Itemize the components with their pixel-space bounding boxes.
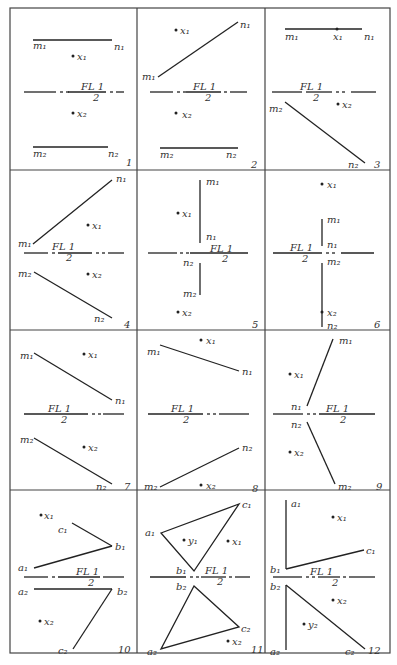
panel-number: 2	[250, 159, 257, 170]
svg-text:FL 1: FL 1	[192, 81, 216, 92]
svg-text:x₁: x₁	[92, 220, 102, 231]
svg-text:m₁: m₁	[339, 335, 353, 346]
panel-10	[24, 523, 124, 649]
svg-text:FL 1: FL 1	[309, 566, 333, 577]
svg-text:2: 2	[87, 577, 94, 588]
svg-text:c₂: c₂	[241, 623, 251, 634]
panel-6-labels: x₁m₁n₁ FL 12 m₂x₂n₂ 6	[289, 179, 381, 331]
svg-text:a₁: a₁	[145, 527, 155, 538]
svg-text:x₂: x₂	[88, 442, 98, 453]
svg-text:n₁: n₁	[242, 366, 252, 377]
svg-text:n₁: n₁	[206, 231, 216, 242]
panel-number: 10	[118, 644, 131, 655]
svg-text:m₂: m₂	[160, 149, 174, 160]
panel-2-points	[175, 29, 178, 115]
svg-text:x₁: x₁	[333, 31, 343, 42]
panel-1-labels: m₁n₁x₁ FL 12 x₂m₂n₂ 1	[33, 40, 132, 168]
svg-text:2: 2	[339, 414, 346, 425]
svg-text:m₂: m₂	[144, 481, 158, 492]
panel-10-points	[39, 514, 43, 623]
svg-text:m₁: m₁	[206, 176, 220, 187]
panel-10-labels: x₁c₁b₁ a₁FL 12 a₂b₂x₂ c₂ 10	[18, 510, 131, 656]
svg-text:n₂: n₂	[96, 481, 106, 492]
svg-text:m₂: m₂	[18, 268, 32, 279]
panel-11-labels: c₁a₁y₁x₁ b₁FL 12 b₂c₂x₂ a₂ 11	[145, 499, 264, 657]
svg-text:x₁: x₁	[327, 179, 337, 190]
svg-text:a₁: a₁	[18, 562, 28, 573]
svg-text:n₁: n₁	[116, 173, 126, 184]
panel-number: 4	[123, 319, 130, 330]
svg-text:b₂: b₂	[176, 581, 186, 592]
svg-text:y₁: y₁	[187, 535, 198, 546]
svg-text:x₂: x₂	[294, 447, 304, 458]
svg-text:n₂: n₂	[327, 320, 337, 331]
svg-text:x₂: x₂	[77, 108, 87, 119]
svg-text:x₁: x₁	[77, 51, 87, 62]
panel-5-points	[177, 212, 180, 314]
svg-text:FL 1: FL 1	[170, 403, 194, 414]
svg-text:x₂: x₂	[92, 269, 102, 280]
svg-text:n₁: n₁	[327, 239, 337, 250]
panel-7	[24, 353, 124, 484]
svg-text:n₂: n₂	[183, 257, 193, 268]
panel-number: 5	[252, 319, 258, 330]
panel-1-points	[72, 55, 75, 115]
svg-text:b₁: b₁	[176, 565, 186, 576]
svg-text:m₁: m₁	[33, 40, 47, 51]
svg-text:2: 2	[60, 414, 67, 425]
panel-6	[273, 219, 374, 327]
svg-text:m₂: m₂	[338, 481, 352, 492]
svg-text:x₁: x₁	[88, 349, 98, 360]
svg-text:2: 2	[92, 92, 99, 103]
svg-text:2: 2	[182, 414, 189, 425]
panel-number: 8	[252, 483, 258, 494]
panel-4-labels: n₁x₁m₁ FL 12 m₂x₂n₂ 4	[18, 173, 130, 330]
panel-7-points	[83, 353, 86, 449]
svg-text:c₁: c₁	[242, 499, 252, 510]
svg-text:FL 1: FL 1	[299, 81, 323, 92]
svg-text:x₁: x₁	[180, 25, 190, 36]
svg-text:x₂: x₂	[44, 616, 54, 627]
svg-text:n₂: n₂	[108, 148, 118, 159]
svg-text:b₁: b₁	[115, 541, 125, 552]
svg-text:x₁: x₁	[44, 510, 54, 521]
svg-text:n₁: n₁	[364, 31, 374, 42]
svg-text:2: 2	[65, 252, 72, 263]
panel-3	[272, 29, 376, 163]
svg-text:m₂: m₂	[269, 103, 283, 114]
svg-text:x₁: x₁	[206, 335, 216, 346]
svg-text:b₂: b₂	[117, 586, 127, 597]
panel-3-labels: m₁x₁n₁ FL 12 x₂m₂n₂ 3	[269, 31, 380, 170]
panel-7-labels: m₁x₁n₁ FL 12 m₂x₂n₂ 7	[20, 349, 131, 492]
svg-text:c₁: c₁	[58, 524, 68, 535]
svg-text:m₁: m₁	[147, 346, 161, 357]
svg-text:n₂: n₂	[291, 419, 301, 430]
svg-text:2: 2	[204, 92, 211, 103]
svg-text:n₂: n₂	[348, 159, 358, 170]
svg-text:n₁: n₁	[115, 395, 125, 406]
svg-text:FL 1: FL 1	[80, 81, 104, 92]
svg-text:2: 2	[331, 577, 338, 588]
svg-text:a₂: a₂	[18, 586, 28, 597]
panel-4-points	[87, 224, 90, 276]
svg-text:FL 1: FL 1	[47, 403, 71, 414]
svg-text:n₁: n₁	[240, 19, 250, 30]
svg-text:m₁: m₁	[18, 238, 32, 249]
panel-number: 3	[374, 159, 380, 170]
svg-text:n₁: n₁	[114, 41, 124, 52]
panel-8-points	[200, 339, 203, 487]
panel-number: 12	[368, 645, 381, 656]
svg-text:n₂: n₂	[226, 149, 236, 160]
svg-text:m₁: m₁	[327, 214, 341, 225]
svg-text:x₂: x₂	[232, 636, 242, 647]
svg-text:m₂: m₂	[327, 256, 341, 267]
panel-number: 7	[124, 481, 131, 492]
svg-text:m₂: m₂	[33, 148, 47, 159]
panel-11	[150, 504, 250, 649]
svg-text:m₁: m₁	[285, 31, 299, 42]
svg-text:a₂: a₂	[147, 646, 157, 657]
svg-text:b₂: b₂	[270, 581, 280, 592]
panel-number: 6	[374, 319, 381, 330]
svg-text:2: 2	[301, 253, 308, 264]
svg-text:n₁: n₁	[291, 401, 301, 412]
